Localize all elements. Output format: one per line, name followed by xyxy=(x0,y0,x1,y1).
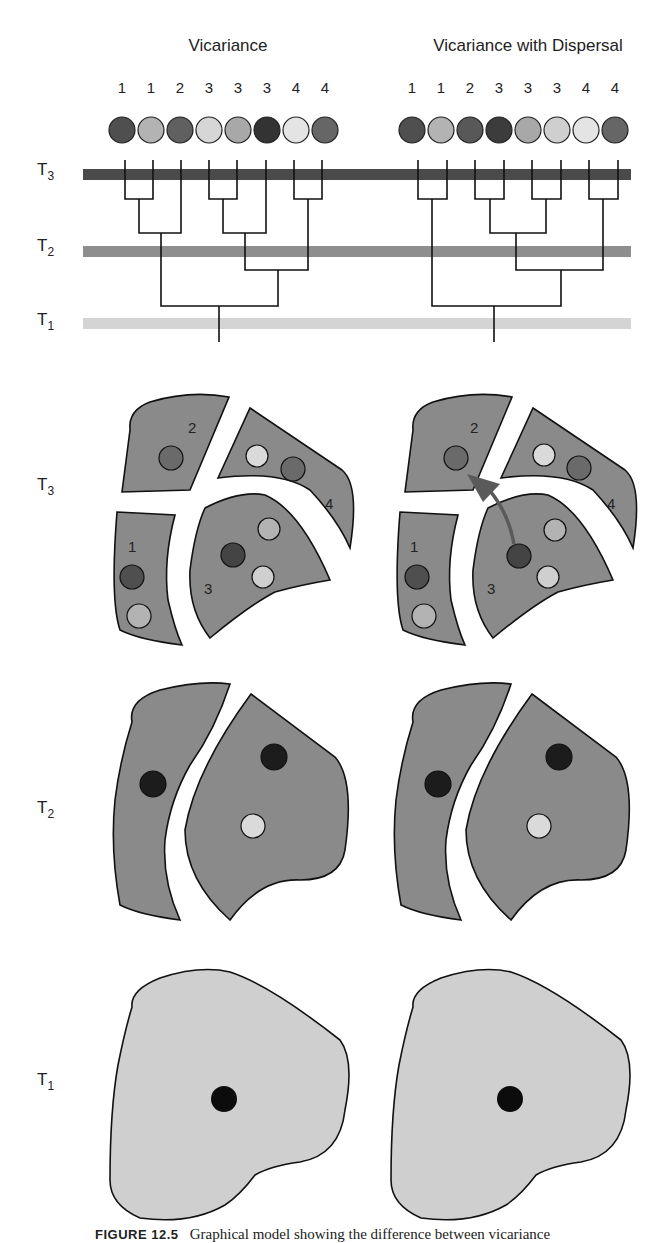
map-t2-left xyxy=(113,683,348,920)
time-bar-t3 xyxy=(83,169,631,180)
tip-circle xyxy=(138,117,164,143)
region-label: 1 xyxy=(410,538,418,555)
caption-text: Graphical model showing the difference b… xyxy=(190,1226,550,1242)
tip-circle xyxy=(254,117,280,143)
region-2 xyxy=(122,394,229,492)
tip-circle xyxy=(225,117,251,143)
region-label: 1 xyxy=(128,538,136,555)
ancestral-population-right xyxy=(497,1086,523,1112)
tip-circle xyxy=(283,117,309,143)
tip-circle xyxy=(196,117,222,143)
tip-circle xyxy=(428,117,454,143)
region-label: 2 xyxy=(188,419,196,436)
tip-circle xyxy=(312,117,338,143)
tip-circle xyxy=(486,117,512,143)
map-t2-right xyxy=(394,683,629,920)
region-3 xyxy=(473,494,613,638)
figure-caption: FIGURE 12.5 Graphical model showing the … xyxy=(95,1226,550,1243)
region-label: 2 xyxy=(470,419,478,436)
tip-circle xyxy=(457,117,483,143)
region-label: 4 xyxy=(607,495,615,512)
figure-label: FIGURE 12.5 xyxy=(95,1227,179,1242)
tip-circle xyxy=(544,117,570,143)
tip-circle xyxy=(602,117,628,143)
ancestral-population-left xyxy=(211,1086,237,1112)
time-bar-t1 xyxy=(83,318,631,329)
region-label: 3 xyxy=(487,580,495,597)
tip-circles-right xyxy=(399,117,628,143)
tip-circle xyxy=(515,117,541,143)
region-2 xyxy=(405,394,512,492)
map-t3-left xyxy=(114,394,353,645)
tip-circles-left xyxy=(109,117,338,143)
region-label: 4 xyxy=(325,495,333,512)
time-bar-t2 xyxy=(83,246,631,257)
tip-circle xyxy=(109,117,135,143)
tip-circle xyxy=(167,117,193,143)
tip-circle xyxy=(399,117,425,143)
tip-circle xyxy=(573,117,599,143)
region-label: 3 xyxy=(204,580,212,597)
